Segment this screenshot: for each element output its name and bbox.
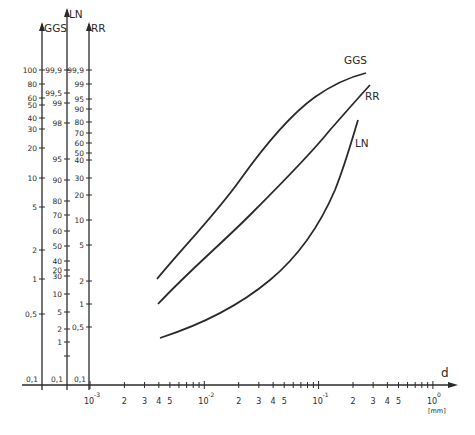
y-tick-label: 40 (74, 156, 84, 165)
y-tick-label: 98 (52, 119, 62, 128)
titles: GGSLNRRd[mm]GGSRRLN (44, 8, 449, 415)
y-tick-label: 40 (27, 114, 37, 123)
y-axis-title-rr: RR (91, 22, 106, 34)
y-tick-label: 95 (52, 155, 62, 164)
axes (22, 8, 458, 390)
curve-label-ggs: GGS (344, 54, 367, 66)
y-tick-label: 10 (27, 174, 37, 183)
y-tick-label: 5 (32, 203, 37, 212)
y-tick-label: 5 (57, 308, 62, 317)
curve-label-ln: LN (355, 137, 369, 149)
y-tick-label: 99,5 (45, 89, 62, 98)
x-tick-label: 2 (236, 397, 241, 406)
y-tick-label: 5 (79, 241, 84, 250)
y-tick-label: 99,9 (67, 66, 84, 75)
y-tick-label: 90 (74, 105, 84, 114)
y-tick-label: 50 (27, 101, 37, 110)
arrow-right-icon (448, 382, 458, 388)
y-tick-label: 10 (74, 216, 84, 225)
baseline-label: 0,1 (74, 375, 86, 384)
y-tick-label: 90 (52, 176, 62, 185)
x-tick-label: 10 (198, 397, 208, 406)
y-tick-label: 99,9 (45, 66, 62, 75)
x-tick-label: 4 (385, 397, 390, 406)
y-tick-label: 99 (74, 80, 84, 89)
y-tick-label: 0,5 (72, 323, 84, 332)
y-tick-label: 60 (52, 227, 62, 236)
y-tick-label: 80 (74, 118, 84, 127)
curve-label-rr: RR (365, 90, 380, 102)
y-tick-label: 40 (52, 257, 62, 266)
curve-ggs (157, 73, 366, 279)
x-tick-exponent: -1 (323, 391, 329, 398)
y-tick-label: 2 (57, 325, 62, 334)
x-tick-label: 5 (167, 397, 172, 406)
y-tick-label: 1 (79, 300, 84, 309)
y-axis-title-ln: LN (69, 8, 83, 20)
y-tick-label: 2 (32, 246, 37, 255)
y-axis-title-ggs: GGS (44, 22, 67, 34)
x-tick-label: 2 (350, 397, 355, 406)
x-axis-unit: [mm] (428, 407, 446, 415)
x-tick-label: 5 (282, 397, 287, 406)
y-tick-label: 80 (52, 197, 62, 206)
x-tick-exponent: -2 (208, 391, 214, 398)
curve-ln (160, 120, 358, 338)
curves (157, 73, 370, 338)
baseline-label: 0,1 (51, 375, 63, 384)
x-tick-label: 10 (84, 397, 94, 406)
y-tick-label: 70 (52, 211, 62, 220)
y-tick-label: 20 (27, 144, 37, 153)
y-tick-label: 60 (74, 139, 84, 148)
y-tick-label: 2 (79, 277, 84, 286)
y-tick-label: 1 (57, 338, 62, 347)
y-tick-label: 20 (74, 191, 84, 200)
x-tick-label: 4 (271, 397, 276, 406)
x-tick-label: 3 (371, 397, 376, 406)
y-tick-label: 20 (52, 266, 62, 275)
y-tick-label: 30 (27, 125, 37, 134)
x-axis-title: d (441, 366, 449, 380)
x-tick-label: 3 (142, 397, 147, 406)
x-tick-label: 3 (256, 397, 261, 406)
curve-rr (158, 85, 370, 304)
y-tick-label: 10 (52, 290, 62, 299)
x-tick-exponent: -3 (94, 391, 100, 398)
y-tick-label: 30 (74, 174, 84, 183)
y-tick-label: 1 (32, 275, 37, 284)
y-tick-label: 95 (74, 95, 84, 104)
y-tick-label: 99 (52, 99, 62, 108)
tick-labels: 0,10,10,1100806050403020105210,599,999,5… (23, 66, 441, 406)
y-tick-label: 100 (23, 66, 38, 75)
x-tick-exponent: 0 (437, 391, 441, 398)
y-tick-label: 80 (27, 80, 37, 89)
baseline-label: 0,1 (26, 375, 38, 384)
y-tick-label: 0,5 (25, 310, 37, 319)
x-tick-label: 4 (156, 397, 161, 406)
particle-size-distribution-chart: 0,10,10,1100806050403020105210,599,999,5… (0, 0, 475, 435)
x-tick-label: 10 (313, 397, 323, 406)
x-tick-label: 5 (396, 397, 401, 406)
x-tick-label: 10 (427, 397, 437, 406)
y-tick-label: 50 (52, 242, 62, 251)
x-tick-label: 2 (122, 397, 127, 406)
y-tick-label: 70 (74, 129, 84, 138)
